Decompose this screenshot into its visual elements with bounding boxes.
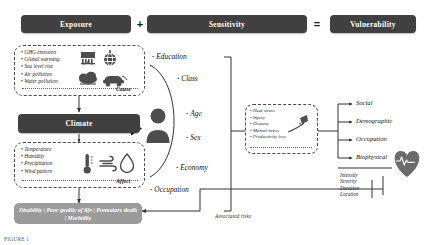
- climate-header-label: Climate: [65, 119, 92, 128]
- climate-item: Temperature: [21, 146, 53, 153]
- climate-item: Wind pattern: [21, 168, 53, 175]
- attribute-economy: - Economy: [176, 163, 208, 172]
- outcome-biophysical: Biophysical: [356, 153, 387, 160]
- exposure-header-label: Exposure: [60, 20, 92, 29]
- heart-icon: [395, 151, 420, 177]
- outcome-demographic: Demographic: [356, 117, 392, 124]
- health-effect-item: Productivity loss: [250, 134, 286, 141]
- climate-header: Climate: [18, 114, 140, 133]
- attribute-age: - Age: [186, 109, 202, 118]
- health-effects-divider: [250, 147, 312, 148]
- exposure-item: Sea level rise: [21, 63, 60, 70]
- associated-risks-label: Associated risks: [215, 213, 251, 219]
- attribute-class: - Class: [177, 74, 198, 83]
- sensitivity-header-label: Sensitivity: [209, 20, 245, 29]
- diagram-canvas: Exposure + Sensitivity = Vulnerability G…: [0, 0, 436, 245]
- figure-caption: FIGURE 1: [4, 236, 29, 242]
- attribute-sex: - Sex: [186, 133, 201, 142]
- health-effects-items: Heat stress Injury Disease Mental stress…: [250, 108, 286, 141]
- plus-symbol: +: [133, 15, 147, 33]
- attribute-education: - Education: [152, 52, 187, 61]
- affect-tag: Affect: [116, 178, 130, 184]
- climate-items: Temperature Humidity Precipitation Wind …: [21, 146, 53, 175]
- exposure-item: Air pollution: [21, 71, 60, 78]
- sensitivity-header: Sensitivity: [147, 15, 307, 33]
- risk-attribute-item: Severity: [340, 178, 359, 184]
- attribute-occupation: - Occupation: [150, 185, 189, 194]
- cause-tag: Cause: [116, 86, 131, 92]
- exposure-item: GHG emission: [21, 49, 60, 56]
- health-outcomes-text: Disability | Poor quality of life | Prem…: [18, 206, 138, 222]
- equals-symbol: =: [310, 15, 324, 33]
- outcome-occupation: Occupation: [356, 135, 387, 142]
- vulnerability-header-label: Vulnerability: [350, 20, 396, 29]
- vulnerability-header: Vulnerability: [330, 15, 416, 33]
- health-outcomes-bar: Disability | Poor quality of life | Prem…: [14, 203, 142, 224]
- exposure-items: GHG emission Global warming Sea level ri…: [21, 49, 60, 85]
- exposure-item: Water pollution: [21, 78, 60, 85]
- risk-attributes: Intensity Severity Duration Location: [340, 172, 359, 198]
- climate-item: Humidity: [21, 153, 53, 160]
- exposure-header: Exposure: [21, 15, 131, 33]
- risk-attribute-item: Location: [340, 191, 359, 197]
- outcome-social: Social: [356, 99, 372, 106]
- climate-item: Precipitation: [21, 160, 53, 167]
- exposure-item: Global warming: [21, 56, 60, 63]
